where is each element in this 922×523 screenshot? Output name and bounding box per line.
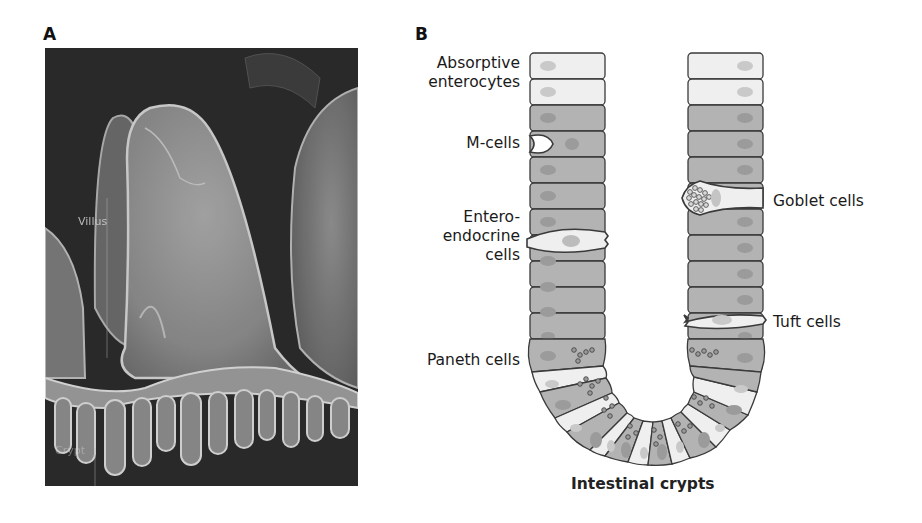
label-m-cells: M-cells <box>420 134 520 153</box>
label-paneth-cells: Paneth cells <box>400 351 520 370</box>
label-enteroendocrine-line3: cells <box>420 246 520 265</box>
label-enteroendocrine-line2: endocrine <box>420 227 520 246</box>
label-goblet-cells: Goblet cells <box>773 192 864 211</box>
label-absorptive-line2: enterocytes <box>420 73 520 92</box>
label-tuft-cells: Tuft cells <box>773 313 841 332</box>
label-absorptive-enterocytes: Absorptive enterocytes <box>420 54 520 92</box>
label-enteroendocrine-line1: Entero- <box>420 208 520 227</box>
label-absorptive-line1: Absorptive <box>420 54 520 73</box>
label-enteroendocrine-cells: Entero- endocrine cells <box>420 208 520 265</box>
crypt-title: Intestinal crypts <box>571 475 715 493</box>
